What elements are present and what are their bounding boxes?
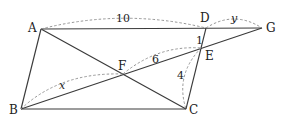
diagram-canvas: A B C D E F G 10 y 1 6 4 x — [0, 0, 282, 123]
segment-ac — [41, 29, 186, 109]
segment-ab — [21, 29, 41, 109]
arc-fe — [123, 48, 201, 74]
measure-bf: x — [59, 79, 66, 92]
segment-ag — [41, 28, 262, 29]
measure-dg: y — [230, 12, 238, 25]
point-label-f: F — [118, 59, 126, 73]
point-label-d: D — [200, 11, 210, 25]
measure-ec: 4 — [177, 69, 184, 82]
measure-fe: 6 — [152, 53, 159, 66]
point-label-e: E — [205, 49, 214, 63]
measure-de: 1 — [196, 34, 203, 47]
point-label-a: A — [27, 21, 37, 35]
point-label-b: B — [9, 103, 18, 117]
segment-bg — [21, 28, 262, 109]
point-label-g: G — [266, 21, 276, 35]
geometry-diagram: A B C D E F G 10 y 1 6 4 x — [0, 0, 282, 123]
point-label-c: C — [189, 103, 198, 117]
measure-ad: 10 — [116, 12, 130, 25]
